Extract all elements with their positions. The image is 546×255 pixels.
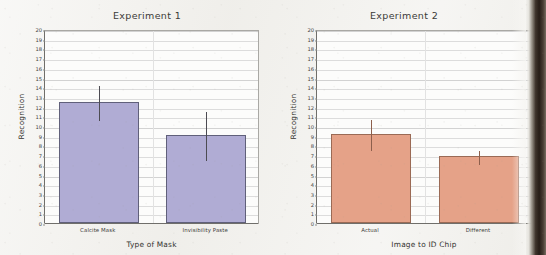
y-tick-mark [315,50,318,51]
y-tick-mark [315,98,318,99]
y-tick-label: 4 [39,184,42,189]
chart-panel-experiment-2: Experiment 2 Recognition 012345678910111… [272,0,526,255]
y-tick-label: 15 [35,77,42,82]
y-tick-label: 17 [35,57,42,62]
y-tick-mark [43,60,46,61]
x-tick-label-1-0: Calcite Mask [44,227,152,233]
y-tick-mark [315,176,318,177]
y-tick-mark [315,40,318,41]
gridline [317,70,531,71]
bar [439,156,519,223]
x-axis-line-2 [317,223,531,224]
error-bar [99,86,100,121]
y-tick-label: 6 [39,164,42,169]
y-tick-mark [315,205,318,206]
gridline [45,89,258,90]
gridline [317,128,531,129]
gridline [45,99,258,100]
chart-panel-experiment-1: Experiment 1 Recognition 012345678910111… [0,0,268,255]
y-tick-mark [43,225,46,226]
gridline [317,118,531,119]
y-tick-mark [43,147,46,148]
y-tick-label: 10 [307,125,314,130]
y-tick-mark [315,108,318,109]
y-tick-label: 19 [307,38,314,43]
y-tick-label: 9 [311,135,314,140]
y-tick-label: 18 [307,48,314,53]
y-tick-mark [43,186,46,187]
y-tick-label: 13 [35,96,42,101]
y-tick-mark [43,128,46,129]
category-separator [153,31,154,223]
y-tick-mark [43,31,46,32]
y-tick-label: 12 [307,106,314,111]
plot-area-2: 01234567891011121314151617181920 [316,30,532,224]
gridline [317,31,531,32]
y-tick-mark [43,176,46,177]
y-tick-mark [315,60,318,61]
y-tick-label: 1 [39,213,42,218]
y-tick-mark [315,186,318,187]
y-tick-mark [43,108,46,109]
error-bar [206,112,207,161]
y-tick-mark [315,118,318,119]
y-tick-mark [315,128,318,129]
y-tick-label: 14 [307,87,314,92]
book-page-edge [526,0,546,255]
plot-inner-1 [45,31,258,223]
plot-inner-2 [317,31,531,223]
gridline [45,50,258,51]
y-tick-mark [43,69,46,70]
gridline [45,41,258,42]
y-tick-label: 11 [35,116,42,121]
y-tick-mark [315,31,318,32]
y-tick-label: 8 [39,145,42,150]
y-tick-label: 3 [311,193,314,198]
gridline [317,89,531,90]
y-tick-mark [315,166,318,167]
y-tick-label: 7 [311,154,314,159]
y-tick-mark [315,69,318,70]
y-tick-label: 0 [311,222,314,227]
y-tick-mark [315,89,318,90]
y-tick-mark [43,205,46,206]
y-tick-label: 8 [311,145,314,150]
gridline [317,60,531,61]
x-tick-label-1-1: Invisibility Paste [152,227,260,233]
y-tick-label: 1 [311,213,314,218]
y-tick-label: 10 [35,125,42,130]
error-bar [371,120,372,151]
y-tick-mark [43,137,46,138]
y-tick-label: 5 [39,174,42,179]
y-tick-mark [43,40,46,41]
y-tick-label: 5 [311,174,314,179]
y-tick-label: 6 [311,164,314,169]
y-tick-label: 17 [307,57,314,62]
y-tick-label: 18 [35,48,42,53]
y-tick-label: 14 [35,87,42,92]
gridline [317,41,531,42]
gridline [45,80,258,81]
y-tick-mark [43,195,46,196]
y-axis-title-1: Recognition [17,87,26,147]
y-tick-label: 0 [39,222,42,227]
gridline [317,50,531,51]
y-tick-mark [315,157,318,158]
gridline [45,31,258,32]
y-tick-mark [43,157,46,158]
x-tick-label-2-0: Actual [316,227,424,233]
y-tick-label: 11 [307,116,314,121]
error-bar [479,151,480,165]
y-tick-mark [43,166,46,167]
y-tick-label: 13 [307,96,314,101]
y-tick-mark [43,98,46,99]
y-axis-title-2: Recognition [289,87,298,147]
gridline [317,80,531,81]
chart-title-1: Experiment 1 [0,10,268,21]
y-tick-label: 20 [35,28,42,33]
y-tick-label: 12 [35,106,42,111]
y-tick-mark [43,89,46,90]
y-tick-mark [43,215,46,216]
category-separator [425,31,426,223]
y-tick-mark [43,50,46,51]
